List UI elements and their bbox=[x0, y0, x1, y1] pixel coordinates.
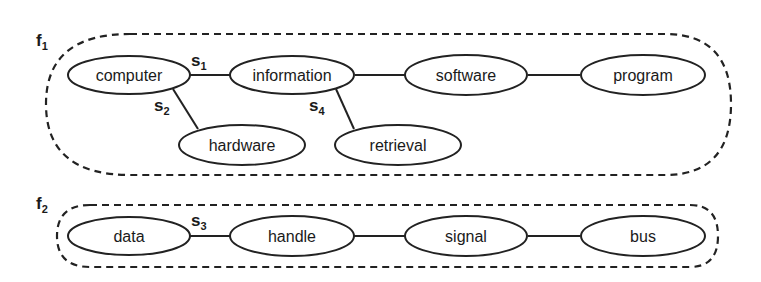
node-hardware: hardware bbox=[179, 125, 305, 165]
node-signal: signal bbox=[405, 216, 527, 256]
node-retrieval: retrieval bbox=[335, 125, 461, 165]
edge-label-s3: s3 bbox=[191, 211, 207, 232]
node-bus: bus bbox=[581, 216, 705, 256]
node-program-label: program bbox=[613, 67, 673, 84]
node-data-label: data bbox=[113, 228, 144, 245]
node-information-label: information bbox=[252, 67, 331, 84]
edge-label-s4: s4 bbox=[309, 96, 325, 117]
node-software: software bbox=[405, 55, 527, 95]
node-computer: computer bbox=[68, 56, 190, 94]
node-hardware-label: hardware bbox=[209, 137, 276, 154]
node-software-label: software bbox=[436, 67, 497, 84]
group-f1-label: f1 bbox=[36, 31, 48, 52]
edge-label-s1: s1 bbox=[191, 51, 207, 72]
node-handle-label: handle bbox=[268, 228, 316, 245]
node-handle: handle bbox=[230, 216, 354, 256]
node-retrieval-label: retrieval bbox=[370, 137, 427, 154]
node-bus-label: bus bbox=[630, 228, 656, 245]
node-program: program bbox=[581, 55, 705, 95]
semantic-graph-diagram: f1 f2 s1 s2 s4 s3 computer information bbox=[0, 0, 761, 282]
edge-label-s2: s2 bbox=[154, 96, 170, 117]
node-information: information bbox=[230, 56, 354, 94]
edge-computer-hardware bbox=[173, 89, 198, 129]
edge-information-retrieval bbox=[336, 89, 354, 129]
node-data: data bbox=[68, 217, 190, 255]
group-f2-label: f2 bbox=[36, 194, 48, 215]
node-signal-label: signal bbox=[445, 228, 487, 245]
node-computer-label: computer bbox=[96, 67, 163, 84]
